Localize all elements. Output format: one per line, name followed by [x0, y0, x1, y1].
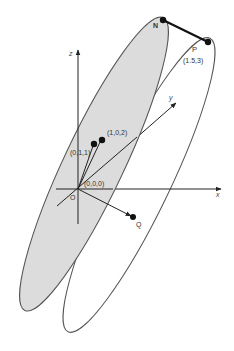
point-n — [160, 17, 166, 23]
x-axis-label: x — [215, 191, 220, 198]
label-origin-coords: (0,0,0) — [84, 180, 104, 188]
point-a — [99, 137, 105, 143]
y-axis-label: y — [168, 94, 173, 102]
label-o: O — [70, 194, 76, 201]
point-q — [130, 214, 136, 220]
label-n: N — [153, 22, 158, 29]
label-q: Q — [136, 221, 142, 229]
point-p — [205, 39, 211, 45]
label-p: P — [192, 45, 197, 54]
segment-np — [163, 20, 208, 42]
label-a-coords: (1,0,2) — [107, 129, 127, 137]
point-b — [91, 141, 97, 147]
label-p-coords: (1.5,3) — [183, 57, 203, 65]
label-b-coords: (0,1,1) — [70, 149, 90, 157]
z-axis-label: z — [68, 50, 73, 57]
diagram-canvas: z y x N P (1.5,3) (1,0,2) (0,1,1) (0,0,0… — [0, 0, 234, 351]
